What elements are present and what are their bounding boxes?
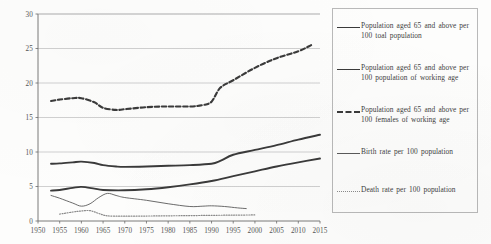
x-tick-label-1950: 1950 [31, 227, 46, 235]
x-tick-label-1955: 1955 [52, 227, 67, 235]
x-axis-tick-labels: 1950195519601965197019751980198519901995… [31, 227, 328, 235]
series-line-3 [51, 193, 246, 208]
y-tick-label-20: 20 [26, 80, 34, 88]
legend-item-2[interactable]: Population aged 65 and above per 100 fem… [337, 105, 475, 124]
y-tick-label-10: 10 [26, 149, 34, 157]
line-dashed-icon [337, 106, 361, 117]
legend-item-3[interactable]: Birth rate per 100 population [337, 147, 475, 159]
x-tick-label-1965: 1965 [96, 227, 111, 235]
x-tick-label-1970: 1970 [117, 227, 132, 235]
data-series-lines [51, 45, 320, 216]
x-tick-label-1980: 1980 [161, 227, 176, 235]
legend-item-label: Birth rate per 100 population [361, 147, 475, 157]
chart-legend: Population aged 65 and above per 100 toa… [332, 8, 478, 213]
y-tick-label-5: 5 [29, 183, 33, 191]
line-dotted-icon [337, 186, 361, 197]
legend-item-label: Population aged 65 and above per 100 pop… [361, 63, 475, 82]
y-tick-label-0: 0 [29, 218, 33, 226]
legend-item-0[interactable]: Population aged 65 and above per 100 toa… [337, 21, 475, 40]
legend-item-label: Population aged 65 and above per 100 fem… [361, 105, 475, 124]
line-solid-thick-icon [337, 64, 361, 75]
axis-ticks [36, 14, 321, 224]
gridlines [38, 14, 320, 187]
y-axis-tick-labels: 051015202530 [26, 11, 34, 226]
x-tick-label-1960: 1960 [74, 227, 89, 235]
legend-item-label: Population aged 65 and above per 100 toa… [361, 21, 475, 40]
x-tick-label-2010: 2010 [291, 227, 306, 235]
x-tick-label-1990: 1990 [204, 227, 219, 235]
y-tick-label-25: 25 [26, 45, 34, 53]
y-tick-label-15: 15 [26, 114, 34, 122]
legend-item-label: Death rate per 100 population [361, 185, 475, 195]
y-tick-label-30: 30 [26, 11, 34, 19]
x-tick-label-2000: 2000 [248, 227, 263, 235]
x-tick-label-2015: 2015 [313, 227, 328, 235]
series-line-0 [51, 135, 320, 167]
line-solid-thick-icon [337, 22, 361, 33]
x-tick-label-1975: 1975 [139, 227, 154, 235]
series-line-4 [60, 211, 255, 217]
x-tick-label-1985: 1985 [182, 227, 197, 235]
line-solid-thin-icon [337, 148, 361, 159]
legend-item-1[interactable]: Population aged 65 and above per 100 pop… [337, 63, 475, 82]
x-tick-label-1995: 1995 [226, 227, 241, 235]
x-tick-label-2005: 2005 [269, 227, 284, 235]
legend-item-4[interactable]: Death rate per 100 population [337, 185, 475, 197]
series-line-2 [51, 45, 311, 110]
